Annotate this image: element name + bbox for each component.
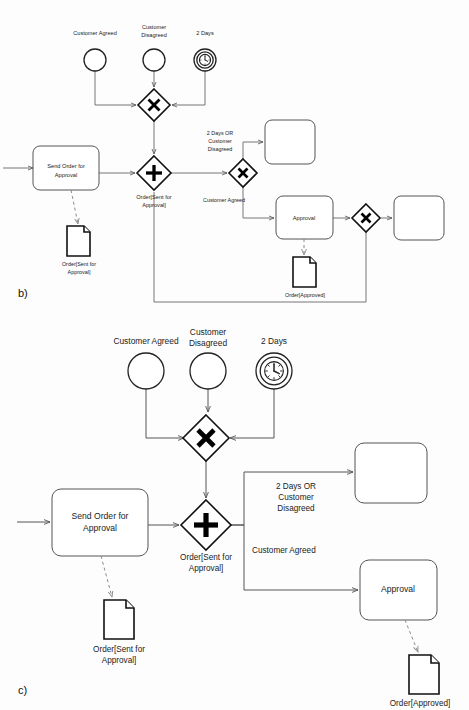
figure-c: Customer Agreed Customer Disagreed 2 Day…: [17, 327, 450, 708]
figure-b-gateways: [137, 89, 380, 232]
assoc-send-order-to-doc: [101, 556, 112, 597]
order-sent-document-label-line1: Order[Sent for: [62, 261, 96, 267]
flow-and-to-approval: [231, 525, 358, 590]
flow-label-two-days-or-disagreed-line1: 2 Days OR: [207, 130, 233, 136]
customer-agreed-event[interactable]: [128, 353, 164, 389]
order-approved-document-label: Order[Approved]: [390, 699, 451, 708]
clock-icon: [265, 362, 284, 381]
two-days-timer-event-label: 2 Days: [196, 30, 214, 36]
customer-agreed-event-label: Customer Agreed: [113, 336, 179, 346]
empty-task-right[interactable]: [394, 196, 444, 240]
order-sent-document-label-line2: Approval]: [68, 269, 91, 275]
customer-agreed-event-label: Customer Agreed: [73, 30, 117, 36]
figure-b-events: [84, 49, 216, 71]
approval-task-label: Approval: [381, 584, 415, 594]
send-order-task-label-line2: Approval: [83, 523, 117, 533]
flow-label-customer-agreed: Customer Agreed: [203, 197, 245, 203]
customer-disagreed-event-label-line2: Disagreed: [189, 338, 228, 348]
empty-task-top[interactable]: [265, 120, 315, 164]
figure-c-caption: c): [18, 684, 27, 696]
flow-label-two-days-or-disagreed-line2: Customer: [278, 493, 314, 502]
flow-label-customer-agreed: Customer Agreed: [252, 546, 316, 555]
bpmn-canvas: Customer Agreed Customer Disagreed 2 Day…: [0, 0, 469, 710]
send-order-task-label-line2: Approval: [55, 172, 77, 178]
split-and-gateway-label-line2: Approval]: [142, 202, 166, 208]
flow-label-two-days-or-disagreed-line3: Disagreed: [208, 146, 233, 152]
send-order-task-label-line1: Send Order for: [72, 511, 129, 521]
flow-decision-to-empty-task: [243, 142, 263, 159]
figure-b: Customer Agreed Customer Disagreed 2 Day…: [3, 24, 444, 302]
customer-disagreed-event[interactable]: [143, 49, 165, 71]
order-approved-document-fold: [431, 655, 439, 663]
merge-xor-gateway[interactable]: [138, 89, 170, 121]
flow-decision-to-approval: [243, 187, 274, 218]
order-sent-document-label-line2: Approval]: [102, 656, 137, 665]
figure-c-events: [128, 353, 292, 389]
split-and-gateway-label-line1: Order[Sent for: [180, 553, 232, 562]
clock-icon: [199, 54, 210, 65]
customer-disagreed-event-label-line2: Disagreed: [141, 32, 167, 38]
flow-agreed-to-xor: [95, 71, 136, 105]
customer-disagreed-event[interactable]: [190, 353, 226, 389]
flow-loopback-to-and: [154, 192, 366, 302]
figure-b-caption: b): [18, 287, 28, 299]
diagram-page: Customer Agreed Customer Disagreed 2 Day…: [0, 0, 469, 710]
empty-task-top[interactable]: [355, 443, 427, 503]
approval-task-label: Approval: [293, 215, 315, 221]
flow-agreed-to-xor: [146, 389, 184, 438]
order-approved-document-label: Order[Approved]: [285, 292, 325, 298]
flow-label-two-days-or-disagreed-line3: Disagreed: [277, 504, 315, 513]
two-days-timer-event-label: 2 Days: [261, 336, 287, 346]
customer-agreed-event[interactable]: [84, 49, 106, 71]
split-and-gateway[interactable]: [137, 156, 171, 190]
assoc-send-order-to-doc: [71, 190, 78, 224]
figure-c-labels: Customer Agreed Customer Disagreed 2 Day…: [18, 327, 450, 708]
flow-timer-to-xor: [230, 389, 274, 438]
decision-xor-gateway[interactable]: [229, 159, 257, 187]
order-approved-document-fold: [310, 257, 316, 263]
two-days-timer-event[interactable]: [256, 353, 292, 389]
split-and-gateway[interactable]: [181, 500, 231, 550]
flow-timer-to-xor: [172, 71, 205, 105]
merge-xor-gateway[interactable]: [183, 415, 229, 461]
send-order-task-label-line1: Send Order for: [47, 163, 85, 169]
order-sent-document-label-line1: Order[Sent for: [93, 645, 145, 654]
split-and-gateway-label-line1: Order[Sent for: [136, 194, 172, 200]
join-xor-gateway[interactable]: [352, 204, 380, 232]
assoc-approval-to-doc: [405, 620, 418, 652]
flow-label-two-days-or-disagreed-line2: Customer: [208, 138, 232, 144]
customer-disagreed-event-label-line1: Customer: [142, 24, 166, 30]
split-and-gateway-label-line2: Approval]: [189, 564, 224, 573]
figure-b-associations: [71, 190, 304, 255]
customer-disagreed-event-label-line1: Customer: [190, 327, 227, 337]
two-days-timer-event[interactable]: [194, 49, 216, 71]
flow-label-two-days-or-disagreed-line1: 2 Days OR: [276, 482, 316, 491]
